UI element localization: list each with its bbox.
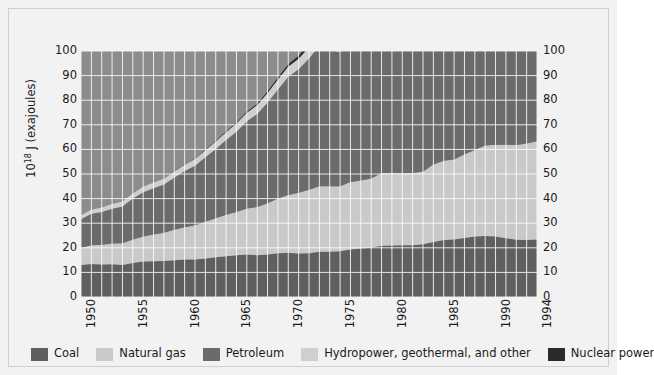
x-axis-tick-1960: 1960	[190, 299, 202, 328]
y-axis-label-mantissa: 10	[24, 163, 38, 178]
y-axis-right-tick-100: 100	[543, 45, 577, 57]
y-axis-left-tick-90: 90	[43, 70, 77, 82]
x-axis-tick-1975: 1975	[345, 299, 357, 328]
y-axis-right-tick-90: 90	[543, 70, 577, 82]
legend-item-nuclear-power[interactable]: Nuclear power	[548, 348, 654, 361]
y-axis-left-tick-40: 40	[43, 193, 77, 205]
y-axis-right-tick-20: 20	[543, 242, 577, 254]
legend-label-coal: Coal	[54, 348, 79, 360]
y-axis-label: 1018 J (exajoules)	[24, 28, 39, 228]
y-axis-right-tick-70: 70	[543, 119, 577, 131]
legend-label-petroleum: Petroleum	[226, 348, 284, 360]
y-axis-right-tick-50: 50	[543, 168, 577, 180]
legend-swatch-natural-gas	[96, 348, 113, 361]
y-axis-left: 0102030405060708090100	[39, 51, 77, 297]
chart-legend: CoalNatural gasPetroleumHydropower, geot…	[31, 343, 606, 365]
y-axis-right-tick-10: 10	[543, 267, 577, 279]
y-axis-right-tick-80: 80	[543, 94, 577, 106]
x-axis-tick-1965: 1965	[241, 299, 253, 328]
y-axis-left-tick-80: 80	[43, 94, 77, 106]
y-axis-left-tick-70: 70	[43, 119, 77, 131]
x-axis-tick-1985: 1985	[449, 299, 461, 328]
y-axis-left-tick-0: 0	[43, 291, 77, 303]
y-axis-left-tick-30: 30	[43, 217, 77, 229]
legend-swatch-nuclear-power	[548, 348, 565, 361]
legend-swatch-petroleum	[203, 348, 220, 361]
legend-swatch-coal	[31, 348, 48, 361]
legend-item-hydropower-geothermal-and-other[interactable]: Hydropower, geothermal, and other	[301, 348, 531, 361]
figure-frame: 1018 J (exajoules) 010203040506070809010…	[8, 8, 609, 367]
legend-swatch-hydropower-geothermal-and-other	[301, 348, 318, 361]
gridlines	[81, 51, 537, 297]
x-axis-tick-1955: 1955	[138, 299, 150, 328]
y-axis-left-tick-20: 20	[43, 242, 77, 254]
x-axis-tick-1970: 1970	[293, 299, 305, 328]
y-axis-left-tick-50: 50	[43, 168, 77, 180]
x-axis-tick-1980: 1980	[397, 299, 409, 328]
y-axis-label-exponent: 18	[24, 153, 33, 163]
legend-label-hydropower-geothermal-and-other: Hydropower, geothermal, and other	[324, 348, 531, 360]
legend-item-coal[interactable]: Coal	[31, 348, 79, 361]
legend-label-natural-gas: Natural gas	[119, 348, 185, 360]
y-axis-left-tick-100: 100	[43, 45, 77, 57]
x-axis-tick-1994: 1994	[542, 299, 554, 328]
y-axis-right-tick-30: 30	[543, 217, 577, 229]
y-axis-left-tick-60: 60	[43, 144, 77, 156]
x-axis-tick-1990: 1990	[501, 299, 513, 328]
y-axis-right-tick-40: 40	[543, 193, 577, 205]
y-axis-left-tick-10: 10	[43, 267, 77, 279]
y-axis-right: 0102030405060708090100	[543, 51, 581, 297]
y-axis-right-tick-60: 60	[543, 144, 577, 156]
plot-area	[81, 51, 537, 297]
x-axis: 1950195519601965197019751980198519901994	[81, 299, 537, 339]
legend-label-nuclear-power: Nuclear power	[571, 348, 654, 360]
y-axis-label-rest: J (exajoules)	[24, 79, 38, 153]
legend-item-petroleum[interactable]: Petroleum	[203, 348, 284, 361]
x-axis-tick-1950: 1950	[86, 299, 98, 328]
legend-item-natural-gas[interactable]: Natural gas	[96, 348, 185, 361]
